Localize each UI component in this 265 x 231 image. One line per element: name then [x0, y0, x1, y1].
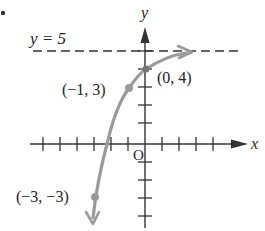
point-label-neg3-neg3: (−3, −3) — [16, 188, 69, 206]
x-axis-label: x — [250, 135, 258, 152]
asymptote-label: y = 5 — [28, 29, 66, 48]
y-axis-arrow-icon — [141, 27, 150, 43]
bullet-dot — [1, 11, 5, 15]
origin-label: O — [133, 147, 144, 163]
point-label-0-4: (0, 4) — [157, 69, 192, 87]
point-label-neg1-3: (−1, 3) — [62, 81, 106, 99]
point-neg3-neg3 — [91, 193, 99, 201]
point-0-4 — [143, 66, 150, 73]
y-axis-label: y — [139, 4, 149, 22]
point-neg1-3 — [125, 84, 133, 92]
x-axis-arrow-icon — [231, 140, 248, 149]
exponential-graph: y = 5 y x O (−3, −3) — [0, 0, 265, 231]
